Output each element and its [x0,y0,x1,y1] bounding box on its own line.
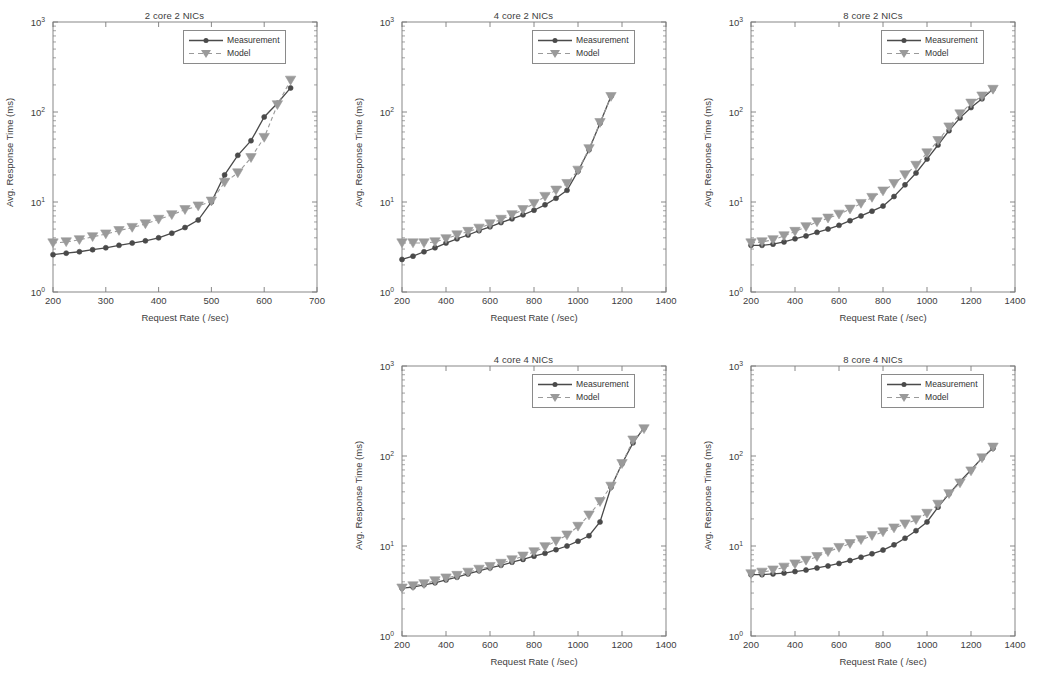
data-point-marker [518,552,528,561]
legend-item-measurement[interactable]: Measurement [537,34,629,47]
legend-item-measurement[interactable]: Measurement [886,378,978,391]
data-point-marker [925,519,930,524]
chart-legend[interactable]: MeasurementModel [532,30,635,64]
legend-item-measurement[interactable]: Measurement [188,34,280,47]
data-point-marker [206,197,216,206]
legend-item-model[interactable]: Model [188,47,280,60]
data-point-marker [77,249,82,254]
data-point-marker [903,182,908,187]
y-tick-label: 103 [729,16,744,28]
x-tick-label: 600 [482,639,498,650]
model-line-icon [188,47,224,60]
data-point-marker [595,119,605,128]
x-tick-label: 200 [45,295,61,306]
x-tick-label: 800 [526,639,542,650]
data-point-marker [779,232,789,241]
model-line-icon [886,391,922,404]
model-line-icon [537,391,573,404]
chart-legend[interactable]: MeasurementModel [532,374,635,408]
data-point-marker [400,257,405,262]
y-tick-label: 103 [31,16,46,28]
x-tick-label: 500 [203,295,219,306]
data-point-marker [793,569,798,574]
data-point-marker [867,193,877,202]
chart-legend[interactable]: MeasurementModel [881,374,984,408]
data-point-marker [790,227,800,236]
legend-item-model[interactable]: Model [537,47,629,60]
x-tick-label: 800 [875,295,891,306]
data-point-marker [183,225,188,230]
panel-cell-1: 4 core 2 NICsAvg. Response Time (ms)2004… [349,0,698,344]
legend-item-model[interactable]: Model [537,391,629,404]
data-point-marker [103,245,108,250]
x-axis-label: Request Rate ( /sec) [362,312,706,323]
y-tick-label: 103 [380,16,395,28]
chart-legend[interactable]: MeasurementModel [881,30,984,64]
chart-panel: 4 core 2 NICsAvg. Response Time (ms)2004… [349,0,698,344]
y-tick-label: 100 [380,630,395,642]
data-point-marker [914,528,919,533]
data-point-marker [551,186,561,195]
x-tick-label: 600 [831,295,847,306]
legend-item-measurement[interactable]: Measurement [886,34,978,47]
data-point-marker [285,76,295,85]
data-point-marker [565,544,570,549]
data-point-marker [812,218,822,227]
data-point-marker [540,192,550,201]
legend-item-model[interactable]: Model [886,47,978,60]
y-tick-label: 103 [380,360,395,372]
x-tick-label: 600 [256,295,272,306]
x-tick-label: 1000 [567,295,588,306]
y-tick-label: 100 [729,286,744,298]
data-point-marker [892,542,897,547]
data-point-marker [233,169,243,178]
data-point-marker [746,239,756,248]
data-point-marker [903,536,908,541]
panel-cell-0: 2 core 2 NICsAvg. Response Time (ms)2003… [0,0,349,344]
data-point-marker [587,533,592,538]
data-point-marker [823,214,833,223]
x-axis-label: Request Rate ( /sec) [362,656,706,667]
x-tick-label: 1000 [567,639,588,650]
data-point-marker [837,223,842,228]
data-point-marker [881,204,886,209]
data-point-marker [430,577,440,586]
data-point-marker [889,179,899,188]
chart-legend[interactable]: MeasurementModel [183,30,286,64]
y-tick-label: 101 [380,540,395,552]
x-tick-label: 1400 [1004,295,1025,306]
x-tick-label: 1000 [916,639,937,650]
x-tick-label: 600 [482,295,498,306]
data-point-marker [543,202,548,207]
data-point-marker [804,568,809,573]
legend-label-measurement: Measurement [573,380,629,389]
series-line [53,88,291,255]
data-point-marker [900,520,910,529]
data-point-marker [823,548,833,557]
figure-grid: 2 core 2 NICsAvg. Response Time (ms)2003… [0,0,1048,687]
data-point-marker [193,202,203,211]
data-point-marker [169,231,174,236]
legend-label-measurement: Measurement [224,36,280,45]
legend-item-model[interactable]: Model [886,391,978,404]
data-point-marker [180,206,190,215]
data-point-marker [826,563,831,568]
legend-label-model: Model [573,393,599,402]
measurement-line-icon [886,34,922,47]
y-tick-label: 100 [31,286,46,298]
legend-item-measurement[interactable]: Measurement [537,378,629,391]
data-point-marker [114,227,124,236]
x-tick-label: 1200 [611,295,632,306]
x-tick-label: 1400 [655,639,676,650]
data-point-marker [804,233,809,238]
y-tick-label: 102 [380,450,395,462]
data-point-marker [573,166,583,175]
data-point-marker [900,171,910,180]
data-point-marker [834,543,844,552]
data-point-marker [859,213,864,218]
panel-cell-2: 8 core 2 NICsAvg. Response Time (ms)2004… [698,0,1048,344]
data-point-marker [598,519,603,524]
measurement-line-icon [537,34,573,47]
chart-panel: 8 core 4 NICsAvg. Response Time (ms)2004… [698,344,1048,687]
x-tick-label: 800 [526,295,542,306]
